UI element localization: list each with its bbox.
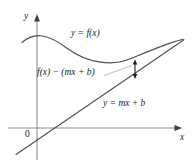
slant-asymptote-figure: y x 0 y = f(x) f(x) − (mx + b) y = mx + …: [0, 0, 194, 164]
line-equation-label: y = mx + b: [103, 99, 145, 109]
function-curve: [22, 36, 183, 63]
origin-label: 0: [25, 130, 30, 140]
y-axis-arrowhead: [34, 14, 40, 22]
gap-expression-label: f(x) − (mx + b): [37, 68, 95, 78]
x-axis-arrowhead: [175, 125, 183, 131]
gap-double-arrow: [133, 60, 138, 79]
leader-line: [104, 66, 132, 76]
gap-arrow-head-up: [133, 60, 138, 65]
asymptote-line: [16, 40, 184, 155]
x-axis: [8, 125, 182, 131]
gap-arrow-head-down: [133, 74, 138, 79]
y-axis-label: y: [24, 12, 28, 22]
curve-equation-label: y = f(x): [71, 29, 100, 39]
x-axis-label: x: [180, 133, 184, 143]
